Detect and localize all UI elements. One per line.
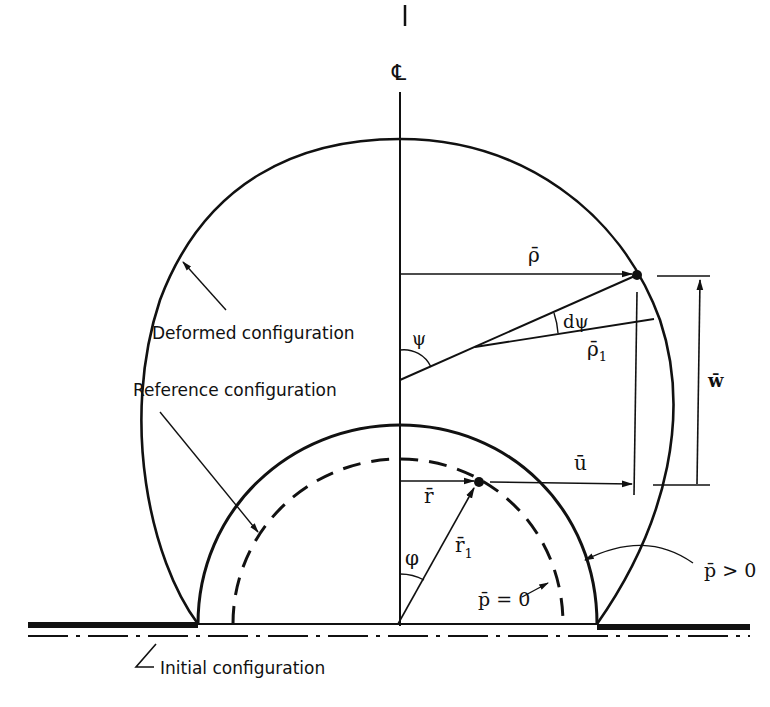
reference-configuration-label: Reference configuration (133, 380, 337, 400)
r1-label: r̄1 (455, 533, 473, 561)
u-vector (490, 482, 632, 484)
rho1-label: ρ̄1 (587, 337, 607, 364)
initial-leader (136, 644, 156, 667)
membrane-deformation-diagram: ℄ ρ̄ ψ dψ ρ̄1 w̄ r̄ ū r̄1 φ p̄ = 0 (0, 0, 770, 707)
phi-angle-arc (400, 574, 424, 580)
psi-label: ψ (412, 328, 426, 349)
centerline-symbol: ℄ (391, 60, 407, 85)
initial-configuration-label: Initial configuration (160, 658, 325, 678)
rho-label: ρ̄ (528, 243, 540, 267)
dpsi-label: dψ (563, 311, 589, 332)
w-label: w̄ (707, 370, 724, 391)
ground-line (28, 624, 750, 627)
dpsi-angle-arc (554, 313, 558, 333)
phi-label: φ (405, 546, 419, 570)
w-dimension (653, 276, 710, 485)
reference-point (474, 477, 484, 487)
reference-configuration-arch (198, 425, 597, 624)
psi-angle-arc (400, 350, 431, 367)
u-label: ū (574, 451, 587, 475)
r-label: r̄ (424, 484, 434, 508)
deformed-leader (183, 262, 226, 310)
deformed-configuration-label: Deformed configuration (152, 323, 355, 343)
p-positive-label: p̄ > 0 (704, 559, 756, 581)
p-zero-label: p̄ = 0 (478, 588, 530, 610)
centerline (400, 5, 405, 626)
reference-leader (160, 412, 258, 532)
